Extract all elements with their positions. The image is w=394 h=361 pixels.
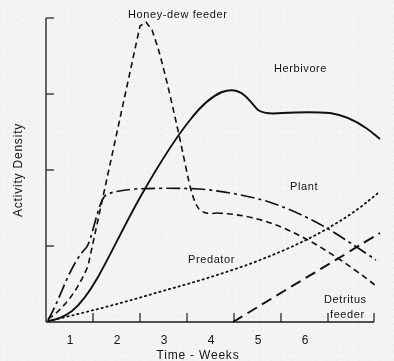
x-tick-label-4: 4 xyxy=(208,333,215,347)
annotation-detritus: Detritus xyxy=(324,293,367,305)
x-tick-label-6: 6 xyxy=(302,333,309,347)
x-tick-labels: 1 2 3 4 5 6 xyxy=(67,333,309,347)
series-herbivore xyxy=(48,90,380,321)
activity-density-chart: 1 2 3 4 5 6 Time - Weeks Activity Densit… xyxy=(0,0,394,361)
series-honey-dew-feeder xyxy=(48,22,217,319)
chart-svg: 1 2 3 4 5 6 Time - Weeks Activity Densit… xyxy=(0,0,394,361)
x-axis-title: Time - Weeks xyxy=(157,348,240,361)
y-axis-title: Activity Density xyxy=(11,123,25,217)
annotation-predator: Predator xyxy=(188,253,235,265)
x-tick-label-3: 3 xyxy=(161,333,168,347)
x-tick-label-2: 2 xyxy=(114,333,121,347)
x-tick-label-5: 5 xyxy=(255,333,262,347)
annotation-detritus-feeder-line2: feeder xyxy=(330,308,365,320)
annotation-honey-dew-feeder: Honey-dew feeder xyxy=(128,8,228,20)
x-tick-label-1: 1 xyxy=(67,333,74,347)
annotation-herbivore: Herbivore xyxy=(274,62,327,74)
y-axis-ticks xyxy=(46,18,54,246)
annotation-plant: Plant xyxy=(290,180,318,192)
